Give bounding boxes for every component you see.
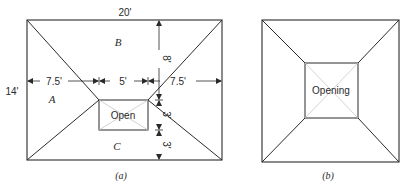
height-label: 14' [5, 86, 18, 97]
hip-line [358, 20, 399, 63]
dim-label: 7.5' [170, 76, 186, 87]
dim-label: 8' [161, 55, 172, 63]
opening-label: Opening [312, 85, 350, 96]
outer-rectangle-a [27, 20, 222, 160]
dim-label: 3' [161, 111, 172, 119]
width-label: 20' [118, 7, 131, 18]
caption-a: (a) [115, 170, 127, 182]
hip-line [358, 118, 399, 162]
figure-b: Opening (b) [262, 20, 399, 182]
hip-line [27, 20, 99, 100]
hip-line [262, 118, 305, 162]
dim-label: 3' [161, 141, 172, 149]
dim-label: 7.5' [46, 76, 62, 87]
figure-a: 7.5' 5' 7.5' 8' 3' 3' 20' 14' B A C Open… [5, 7, 222, 182]
region-label-a: A [48, 93, 56, 105]
caption-b: (b) [322, 170, 334, 182]
hip-line [262, 20, 305, 63]
hip-line [27, 100, 99, 160]
region-label-b: B [115, 36, 122, 48]
dim-label: 5' [119, 76, 127, 87]
hip-roof-diagrams: 7.5' 5' 7.5' 8' 3' 3' 20' 14' B A C Open… [0, 0, 416, 192]
region-label-c: C [113, 140, 121, 152]
opening-label: Open [111, 110, 135, 121]
horizontal-dimension: 7.5' 5' 7.5' [28, 76, 221, 87]
